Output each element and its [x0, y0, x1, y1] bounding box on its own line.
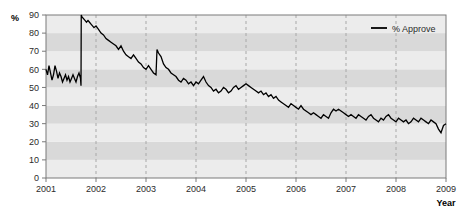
x-tick-label-2005: 2005: [236, 184, 256, 194]
y-tick-label-40: 40: [29, 101, 39, 111]
x-tick-label-2007: 2007: [336, 184, 356, 194]
y-tick-label-80: 80: [29, 28, 39, 38]
y-tick-label-20: 20: [29, 137, 39, 147]
y-axis-ticks: 0102030405060708090: [29, 10, 46, 183]
band-10-20: [46, 142, 446, 160]
x-tick-label-2004: 2004: [186, 184, 206, 194]
band-50-60: [46, 69, 446, 87]
y-tick-label-70: 70: [29, 46, 39, 56]
y-tick-label-60: 60: [29, 65, 39, 75]
approval-rating-chart: 0102030405060708090 20012002200320042005…: [0, 0, 470, 213]
y-axis-title: %: [11, 13, 19, 23]
x-tick-label-2006: 2006: [286, 184, 306, 194]
y-tick-label-90: 90: [29, 10, 39, 20]
x-tick-label-2009: 2009: [436, 184, 456, 194]
x-tick-label-2003: 2003: [136, 184, 156, 194]
x-tick-label-2008: 2008: [386, 184, 406, 194]
band-20-30: [46, 124, 446, 142]
y-tick-label-10: 10: [29, 155, 39, 165]
band-30-40: [46, 106, 446, 124]
chart-canvas: 0102030405060708090 20012002200320042005…: [0, 0, 470, 213]
y-tick-label-30: 30: [29, 119, 39, 129]
y-tick-label-0: 0: [34, 173, 39, 183]
x-axis-ticks: 200120022003200420052006200720082009: [36, 178, 456, 194]
x-tick-label-2002: 2002: [86, 184, 106, 194]
legend-label: % Approve: [392, 24, 436, 34]
y-tick-label-50: 50: [29, 83, 39, 93]
band-40-50: [46, 87, 446, 105]
band-0-10: [46, 160, 446, 178]
x-axis-title: Year: [436, 198, 456, 208]
x-tick-label-2001: 2001: [36, 184, 56, 194]
